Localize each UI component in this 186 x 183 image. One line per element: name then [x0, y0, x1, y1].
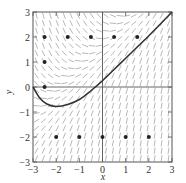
slope-segment: [161, 73, 162, 79]
slope-segment: [90, 29, 95, 33]
slope-segment: [119, 155, 120, 161]
slope-segment: [147, 58, 149, 64]
slope-segment: [160, 28, 162, 34]
slope-segment: [61, 89, 67, 92]
slope-segment: [168, 58, 170, 64]
slope-segment: [47, 82, 53, 85]
slope-segment: [84, 118, 86, 124]
slope-segment: [161, 95, 162, 101]
slope-segment: [104, 58, 108, 63]
slope-segment: [105, 148, 106, 154]
slope-segment: [147, 140, 148, 146]
slope-segment: [105, 110, 107, 116]
slope-segment: [103, 30, 109, 31]
slope-segment: [112, 88, 114, 94]
slope-segment: [68, 75, 74, 76]
slope-segment: [77, 125, 79, 131]
slope-segment: [146, 43, 148, 49]
slope-segment: [154, 88, 155, 94]
slope-segment: [47, 98, 53, 99]
slope-segment: [33, 105, 39, 106]
slope-segment: [77, 20, 80, 26]
x-tick-label: 2: [146, 164, 151, 175]
slope-segment: [147, 118, 148, 124]
slope-segment: [41, 119, 46, 123]
slope-segment: [140, 140, 141, 146]
slope-segment: [111, 44, 116, 48]
slope-segment: [49, 43, 52, 49]
slope-segment: [161, 125, 162, 131]
slope-segment: [140, 95, 141, 101]
slope-segment: [167, 20, 169, 26]
slope-segment: [90, 73, 94, 78]
slope-segment: [42, 43, 44, 49]
slope-segment: [90, 21, 94, 26]
slope-segment: [70, 13, 72, 19]
slope-segment: [49, 50, 52, 56]
slope-segment: [83, 88, 87, 93]
slope-segment: [98, 125, 100, 131]
slope-segment: [40, 89, 46, 92]
slope-segment: [168, 73, 169, 79]
slope-segment: [168, 125, 169, 131]
slope-segment: [91, 140, 93, 146]
x-tick-label: 1: [123, 164, 128, 175]
slope-segment: [54, 74, 60, 77]
slope-segment: [62, 59, 67, 63]
slope-segment: [61, 75, 67, 76]
slope-segment: [168, 155, 169, 161]
slope-segment: [119, 73, 121, 79]
slope-segment: [133, 73, 135, 79]
slope-segment: [49, 28, 51, 34]
slope-segment: [105, 88, 107, 94]
slope-segment: [154, 95, 155, 101]
slope-segment: [168, 118, 169, 124]
slope-segment: [105, 125, 107, 131]
slope-segment: [140, 110, 141, 116]
slope-segment: [133, 155, 134, 161]
slope-segment: [90, 13, 94, 18]
slope-segment: [168, 43, 170, 49]
y-axis-label: y: [3, 89, 14, 95]
slope-segment: [161, 103, 162, 109]
slope-segment: [147, 95, 148, 101]
point-marker: [101, 135, 105, 139]
y-tick-label: 3: [25, 7, 30, 18]
y-tick-label: −2: [19, 132, 30, 143]
slope-segment: [42, 50, 45, 56]
slope-segment: [98, 103, 100, 109]
slope-segment: [91, 103, 93, 109]
slope-segment: [154, 50, 156, 56]
slope-segment: [61, 67, 67, 70]
slope-segment: [119, 103, 121, 109]
slope-segment: [56, 125, 59, 131]
slope-segment: [42, 140, 45, 146]
slope-segment: [75, 74, 81, 77]
slope-segment: [89, 53, 95, 54]
slope-segment: [49, 13, 51, 19]
slope-segment: [75, 68, 81, 69]
slope-segment: [84, 110, 86, 116]
slope-segment: [70, 140, 72, 146]
slope-segment: [147, 110, 148, 116]
slope-segment: [161, 80, 162, 86]
slope-segment: [75, 60, 81, 61]
slope-segment: [41, 73, 45, 78]
y-tick-label: 0: [25, 82, 30, 93]
slope-segment: [77, 103, 80, 109]
slope-segment: [98, 95, 100, 101]
slope-segment: [160, 13, 163, 19]
slope-segment: [119, 65, 122, 71]
slope-segment: [153, 20, 156, 26]
slope-segment: [35, 50, 37, 56]
slope-segment: [47, 90, 53, 91]
y-tick-label: 1: [25, 57, 30, 68]
slope-segment: [42, 66, 46, 71]
slope-segment: [154, 43, 156, 49]
slope-segment: [140, 88, 142, 94]
slope-segment: [126, 103, 128, 109]
slope-segment: [41, 81, 46, 85]
slope-segment: [49, 20, 51, 26]
slope-segment: [154, 73, 156, 79]
slope-segment: [63, 111, 67, 116]
